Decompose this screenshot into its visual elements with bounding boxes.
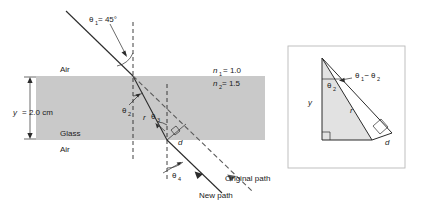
inset-panel: y r d θ 2 θ 1 − θ 2 bbox=[288, 46, 405, 168]
theta2-subscript: 2 bbox=[128, 111, 131, 117]
segment-d-label: d bbox=[178, 138, 183, 147]
label-air-top: Air bbox=[60, 65, 70, 74]
index-n1: n 1 = 1.0 bbox=[213, 66, 242, 77]
dimension-arrow-down bbox=[27, 133, 32, 139]
index-n1-symbol: n bbox=[213, 66, 218, 75]
thickness-value: = 2.0 cm bbox=[22, 108, 53, 117]
inset-diff-theta2-subscript: 2 bbox=[377, 76, 380, 82]
theta1-symbol: θ bbox=[89, 15, 94, 24]
inset-diff-theta1-symbol: θ bbox=[355, 71, 360, 80]
label-glass: Glass bbox=[60, 129, 80, 138]
inset-diff-minus: − bbox=[365, 71, 370, 80]
physics-refraction-figure: y = 2.0 cm Air Glass Air n 1 = 1.0 n 2 =… bbox=[0, 0, 421, 211]
main-diagram: y = 2.0 cm Air Glass Air n 1 = 1.0 n 2 =… bbox=[12, 11, 270, 200]
theta3-symbol: θ bbox=[151, 112, 156, 121]
angle-theta1-label: θ 1 = 45° bbox=[89, 15, 117, 26]
angle-theta4-label: θ 4 bbox=[172, 171, 181, 182]
segment-r-label: r bbox=[143, 113, 146, 122]
figure-canvas: y = 2.0 cm Air Glass Air n 1 = 1.0 n 2 =… bbox=[0, 0, 421, 211]
dimension-arrow-up bbox=[27, 77, 32, 83]
index-n2-value: = 1.5 bbox=[222, 79, 241, 88]
inset-label-r: r bbox=[350, 106, 353, 115]
index-n1-subscript: 1 bbox=[219, 71, 222, 77]
inset-theta2-symbol: θ bbox=[327, 81, 332, 90]
theta4-subscript: 4 bbox=[178, 176, 181, 182]
theta1-leader-arrow bbox=[122, 51, 128, 57]
theta2-symbol: θ bbox=[122, 106, 127, 115]
inset-theta2-subscript: 2 bbox=[333, 86, 336, 92]
theta3-subscript: 3 bbox=[157, 117, 160, 123]
label-air-bottom: Air bbox=[60, 145, 70, 154]
new-path-arrowhead bbox=[195, 172, 203, 179]
inset-diff-theta2-symbol: θ bbox=[371, 71, 376, 80]
thickness-symbol: y bbox=[12, 108, 18, 117]
index-n1-value: = 1.0 bbox=[223, 66, 242, 75]
new-path-label: New path bbox=[199, 191, 233, 200]
theta4-symbol: θ bbox=[172, 171, 177, 180]
inset-label-d: d bbox=[385, 138, 390, 147]
theta1-value: = 45° bbox=[98, 15, 117, 24]
index-n2-symbol: n bbox=[213, 79, 218, 88]
original-path-label: Original path bbox=[225, 174, 270, 183]
index-n2: n 2 = 1.5 bbox=[213, 79, 241, 90]
theta1-leader bbox=[110, 24, 126, 55]
